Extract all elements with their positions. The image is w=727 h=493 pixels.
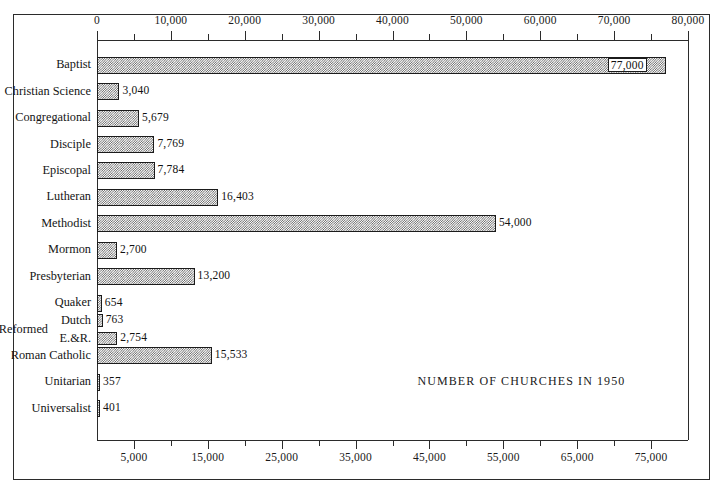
- bar-value-label: 3,040: [119, 84, 149, 96]
- category-label: Presbyterian: [30, 269, 91, 284]
- axis-tick-label-top: 50,000: [450, 14, 483, 26]
- axis-minor-tick-bottom: [245, 440, 246, 446]
- category-label: Christian Science: [5, 84, 91, 99]
- axis-tick-bottom: [503, 440, 504, 449]
- axis-tick-label-bottom: 55,000: [487, 451, 520, 463]
- bar: [97, 215, 496, 232]
- axis-tick-bottom: [356, 440, 357, 449]
- bar: [97, 57, 666, 74]
- axis-tick-top: [393, 31, 394, 40]
- axis-tick-label-bottom: 35,000: [339, 451, 372, 463]
- bar-value-label: 357: [100, 375, 121, 387]
- bar: [97, 347, 212, 364]
- category-label: Baptist: [56, 57, 91, 72]
- category-label: Congregational: [15, 110, 91, 125]
- axis-tick-label-top: 0: [94, 14, 100, 26]
- axis-minor-tick-top: [134, 34, 135, 40]
- bar-value-label: 2,700: [117, 243, 147, 255]
- axis-tick-bottom: [208, 440, 209, 449]
- bar: [97, 332, 117, 345]
- category-label: Roman Catholic: [11, 348, 91, 363]
- axis-tick-label-bottom: 25,000: [265, 451, 298, 463]
- axis-minor-tick-top: [356, 34, 357, 40]
- axis-minor-tick-top: [208, 34, 209, 40]
- bar-value-label: 654: [102, 296, 123, 308]
- axis-tick-label-top: 40,000: [376, 14, 409, 26]
- bar-value-label: 15,533: [212, 348, 248, 360]
- axis-minor-tick-top: [429, 34, 430, 40]
- axis-tick-label-top: 60,000: [524, 14, 557, 26]
- category-label: E.&R.: [60, 331, 91, 346]
- category-label: Universalist: [32, 401, 91, 416]
- bar-value-label: 763: [103, 313, 124, 325]
- bar-value-label: 13,200: [195, 269, 231, 281]
- bar-value-label: 401: [100, 401, 121, 413]
- axis-minor-tick-bottom: [319, 440, 320, 446]
- axis-tick-label-bottom: 15,000: [191, 451, 224, 463]
- bar: [97, 110, 139, 127]
- bar: [97, 242, 117, 259]
- axis-tick-label-top: 30,000: [302, 14, 335, 26]
- axis-tick-label-bottom: 65,000: [561, 451, 594, 463]
- axis-minor-tick-top: [282, 34, 283, 40]
- axis-minor-tick-top: [651, 34, 652, 40]
- category-label: Quaker: [55, 295, 91, 310]
- category-label: Episcopal: [43, 163, 92, 178]
- axis-minor-tick-top: [577, 34, 578, 40]
- axis-tick-label-top: 20,000: [228, 14, 261, 26]
- axis-tick-top: [466, 31, 467, 40]
- axis-tick-top: [171, 31, 172, 40]
- axis-tick-top: [688, 31, 689, 40]
- axis-minor-tick-bottom: [614, 440, 615, 446]
- axis-top-spine: [97, 40, 688, 41]
- axis-tick-bottom: [282, 440, 283, 449]
- bar: [97, 189, 218, 206]
- axis-minor-tick-bottom: [540, 440, 541, 446]
- bar-value-label: 54,000: [496, 216, 532, 228]
- axis-tick-bottom: [429, 440, 430, 449]
- bar-value-label: 2,754: [117, 331, 147, 343]
- category-label: Dutch: [61, 313, 91, 328]
- chart-figure: BaptistChristian ScienceCongregationalDi…: [0, 0, 727, 493]
- category-axis-labels: BaptistChristian ScienceCongregationalDi…: [0, 40, 94, 440]
- chart-caption: NUMBER OF CHURCHES IN 1950: [417, 374, 625, 389]
- bar: [97, 268, 195, 285]
- category-label: Lutheran: [47, 189, 91, 204]
- axis-tick-bottom: [134, 440, 135, 449]
- axis-tick-bottom: [651, 440, 652, 449]
- bar-value-label: 16,403: [218, 190, 254, 202]
- bar: [97, 83, 119, 100]
- bar: [97, 136, 154, 153]
- category-group-label: Reformed: [0, 322, 48, 337]
- axis-tick-top: [614, 31, 615, 40]
- axis-tick-bottom: [577, 440, 578, 449]
- axis-tick-label-bottom: 45,000: [413, 451, 446, 463]
- bar-value-label: 7,784: [155, 163, 185, 175]
- axis-minor-tick-bottom: [466, 440, 467, 446]
- bar: [97, 162, 155, 179]
- axis-tick-label-top: 80,000: [672, 14, 705, 26]
- bar-value-label: 7,769: [154, 137, 184, 149]
- axis-tick-label-top: 70,000: [598, 14, 631, 26]
- axis-tick-label-bottom: 75,000: [635, 451, 668, 463]
- axis-minor-tick-bottom: [171, 440, 172, 446]
- axis-tick-label-bottom: 5,000: [121, 451, 148, 463]
- axis-right-spine: [688, 40, 689, 440]
- axis-tick-top: [97, 31, 98, 40]
- category-label: Disciple: [50, 137, 91, 152]
- bar-value-label: 5,679: [139, 111, 169, 123]
- axis-minor-tick-top: [503, 34, 504, 40]
- axis-tick-top: [245, 31, 246, 40]
- axis-tick-top: [319, 31, 320, 40]
- bar-value-label: 77,000: [608, 58, 647, 72]
- category-label: Mormon: [48, 242, 91, 257]
- axis-tick-label-top: 10,000: [154, 14, 187, 26]
- axis-tick-top: [540, 31, 541, 40]
- axis-minor-tick-bottom: [393, 440, 394, 446]
- category-label: Methodist: [41, 216, 91, 231]
- category-label: Unitarian: [45, 374, 91, 389]
